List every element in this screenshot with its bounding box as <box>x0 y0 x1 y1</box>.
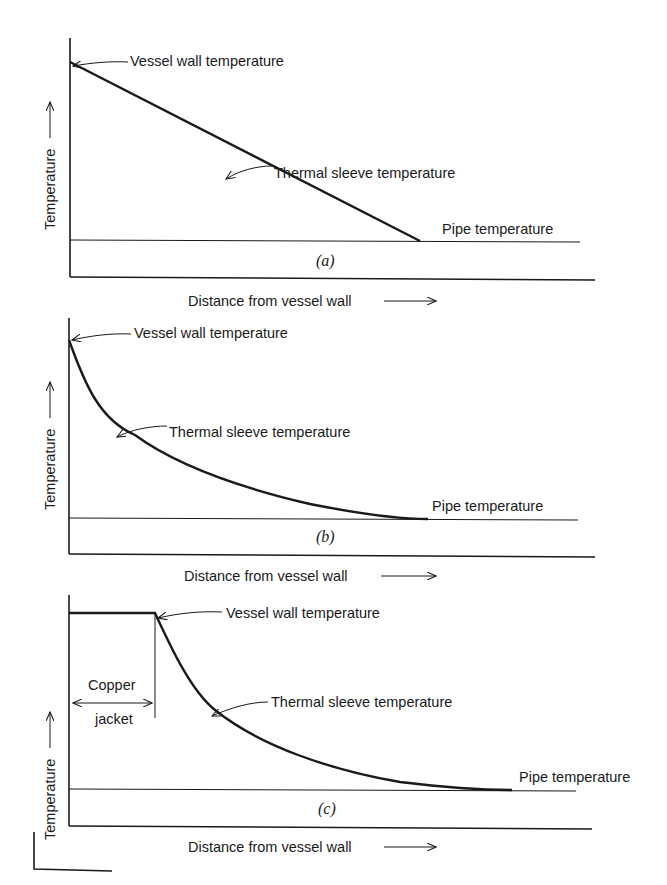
figure-canvas: Vessel wall temperature Thermal sleeve t… <box>0 0 667 885</box>
sleeve-label: Thermal sleeve temperature <box>274 165 455 181</box>
vessel-wall-pointer-arrow <box>158 612 222 618</box>
panel-c: Copper jacket Vessel wall temperature Th… <box>34 595 630 871</box>
x-axis <box>69 826 592 829</box>
x-axis-label: Distance from vessel wall <box>188 839 352 855</box>
y-axis-label: Temperature <box>42 759 58 840</box>
panel-b: Vessel wall temperature Thermal sleeve t… <box>42 318 595 584</box>
sleeve-pointer-arrow <box>226 166 272 179</box>
pipe-label: Pipe temperature <box>432 498 543 514</box>
pipe-label: Pipe temperature <box>519 769 630 785</box>
vessel-wall-pointer-arrow <box>73 62 128 66</box>
panel-a: Vessel wall temperature Thermal sleeve t… <box>42 38 595 309</box>
x-axis-label: Distance from vessel wall <box>188 293 352 309</box>
y-axis-label-group: Temperature <box>42 712 58 840</box>
vessel-wall-label: Vessel wall temperature <box>130 53 284 69</box>
sleeve-label: Thermal sleeve temperature <box>169 424 350 440</box>
pipe-temperature-line <box>70 240 580 242</box>
pipe-label: Pipe temperature <box>442 221 553 237</box>
vessel-wall-label: Vessel wall temperature <box>226 605 380 621</box>
y-axis-label-group: Temperature <box>42 382 58 510</box>
y-axis-label: Temperature <box>42 429 58 510</box>
sleeve-pointer-arrow <box>117 426 167 437</box>
x-axis <box>70 277 595 280</box>
jacket-label: jacket <box>94 711 133 727</box>
x-axis-label: Distance from vessel wall <box>184 568 348 584</box>
sleeve-temperature-line <box>70 62 420 241</box>
panel-label: (b) <box>316 528 335 546</box>
y-axis-label-group: Temperature <box>42 102 58 230</box>
vessel-wall-pointer-arrow <box>72 334 131 340</box>
copper-label: Copper <box>88 677 136 693</box>
panel-label: (a) <box>316 252 335 270</box>
x-axis <box>69 554 595 557</box>
panel-label: (c) <box>318 800 336 818</box>
sleeve-label: Thermal sleeve temperature <box>271 694 452 710</box>
pipe-temperature-line <box>69 518 578 520</box>
y-axis-label: Temperature <box>42 149 58 230</box>
vessel-wall-label: Vessel wall temperature <box>134 325 288 341</box>
